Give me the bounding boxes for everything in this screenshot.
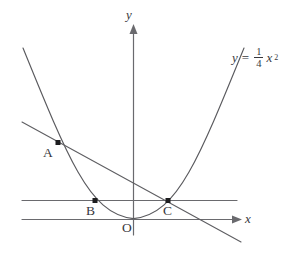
x-axis-label: x bbox=[245, 212, 251, 225]
x-axis-arrow-icon bbox=[232, 216, 242, 224]
point-label-c: C bbox=[163, 204, 172, 218]
origin-label: O bbox=[122, 221, 132, 235]
figure-canvas bbox=[0, 0, 302, 258]
equation-variable: x bbox=[266, 50, 272, 66]
point-label-a: A bbox=[43, 146, 53, 160]
equation-fraction: 1 4 bbox=[254, 46, 263, 69]
equation-label: y = 1 4 x 2 bbox=[232, 46, 278, 69]
y-axis-label: y bbox=[126, 8, 132, 21]
point-label-b: B bbox=[86, 204, 95, 218]
equation-denominator: 4 bbox=[254, 57, 263, 69]
equation-lhs: y bbox=[232, 50, 238, 66]
equation-exponent: 2 bbox=[274, 53, 278, 62]
parabola-figure: y x A B C O y = 1 4 x 2 bbox=[0, 0, 302, 258]
equation-relation: = bbox=[242, 50, 249, 66]
equation-numerator: 1 bbox=[254, 46, 263, 57]
point-marker-a bbox=[56, 140, 61, 145]
y-axis-arrow-icon bbox=[130, 24, 138, 34]
